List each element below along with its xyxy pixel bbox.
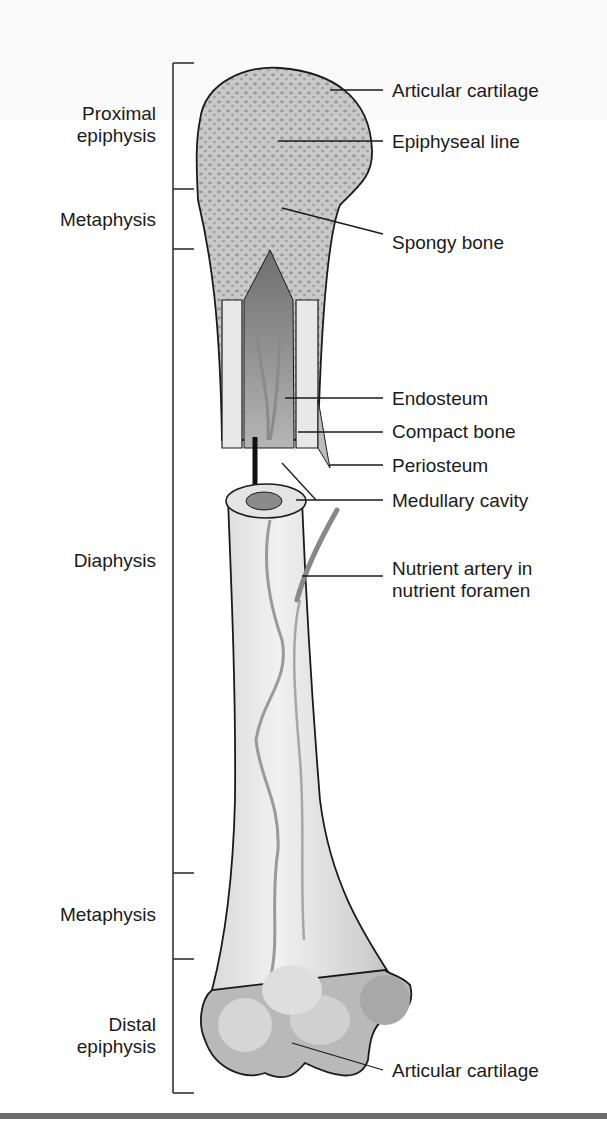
label-spongy-bone: Spongy bone [392,232,504,254]
label-endosteum: Endosteum [392,388,488,410]
label-epiphyseal-line: Epiphyseal line [392,131,520,153]
region-label-metaphysis-proximal: Metaphysis [60,209,156,231]
region-bracket [173,63,194,1093]
label-articular-cartilage-bottom: Articular cartilage [392,1060,539,1082]
region-label-distal-epiphysis: Distal epiphysis [77,1014,156,1058]
label-articular-cartilage-top: Articular cartilage [392,80,539,102]
region-label-proximal-epiphysis: Proximal epiphysis [77,103,156,147]
label-compact-bone: Compact bone [392,421,516,443]
region-label-diaphysis: Diaphysis [74,550,156,572]
label-nutrient-artery: Nutrient artery in nutrient foramen [392,558,532,602]
label-medullary-cavity: Medullary cavity [392,490,528,512]
bottom-divider [0,1113,607,1119]
region-label-metaphysis-distal: Metaphysis [60,904,156,926]
label-periosteum: Periosteum [392,455,488,477]
